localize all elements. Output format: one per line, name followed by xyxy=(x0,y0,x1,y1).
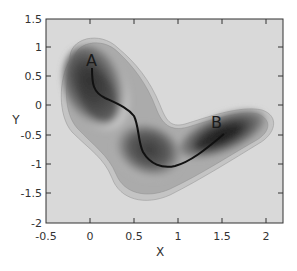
svg-text:0: 0 xyxy=(35,99,42,112)
svg-text:1.5: 1.5 xyxy=(25,13,43,26)
svg-text:1: 1 xyxy=(35,41,42,54)
svg-text:2: 2 xyxy=(263,230,270,243)
svg-text:-1: -1 xyxy=(31,158,42,171)
svg-text:1: 1 xyxy=(175,230,182,243)
y-tick-labels: 1.5 1 0.5 0 -0.5 -1 -1.5 -2 xyxy=(21,13,42,230)
svg-text:0.5: 0.5 xyxy=(125,230,143,243)
contour-chart: A B -0.5 0 0.5 1 1.5 2 1.5 1 0.5 0 -0.5 … xyxy=(0,0,297,271)
x-tick-labels: -0.5 0 0.5 1 1.5 2 xyxy=(35,230,269,243)
svg-text:1.5: 1.5 xyxy=(213,230,231,243)
svg-text:-0.5: -0.5 xyxy=(21,129,42,142)
svg-text:-2: -2 xyxy=(31,217,42,230)
svg-text:-0.5: -0.5 xyxy=(35,230,56,243)
point-b-label: B xyxy=(211,113,222,132)
point-a-label: A xyxy=(86,51,97,70)
svg-text:0.5: 0.5 xyxy=(25,70,43,83)
svg-text:0: 0 xyxy=(87,230,94,243)
x-axis-label: X xyxy=(156,245,164,259)
svg-text:-1.5: -1.5 xyxy=(21,187,42,200)
y-axis-label: Y xyxy=(11,113,20,127)
